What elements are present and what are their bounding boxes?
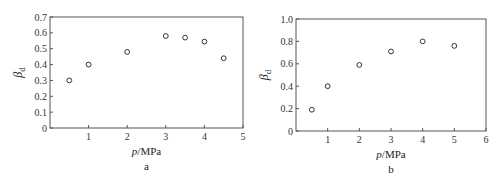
x-axis-label: p/MPa <box>131 145 161 157</box>
y-tick-label: 0.6 <box>281 58 294 69</box>
y-tick-label: 0.2 <box>35 91 48 102</box>
y-tick-label: 0.7 <box>35 12 48 23</box>
data-point <box>183 35 188 40</box>
data-point <box>163 34 168 39</box>
y-tick-label: 0 <box>288 126 293 137</box>
y-tick-label: 0.3 <box>35 75 48 86</box>
data-point <box>221 56 226 61</box>
x-tick-label: 3 <box>163 131 168 142</box>
x-tick-label: 4 <box>420 134 425 145</box>
data-point <box>309 107 314 112</box>
y-tick-label: 0.1 <box>35 107 48 118</box>
y-tick-label: 0.4 <box>35 59 48 70</box>
x-tick-label: 2 <box>125 131 130 142</box>
x-tick-label: 1 <box>86 131 91 142</box>
data-point <box>420 39 425 44</box>
chart-panel-a: 00.10.20.30.40.50.60.712345p/MPaaβd <box>11 12 246 173</box>
data-point <box>389 49 394 54</box>
x-tick-label: 5 <box>452 134 457 145</box>
x-tick-label: 4 <box>202 131 207 142</box>
y-tick-label: 0.5 <box>35 43 48 54</box>
x-axis-label: p/MPa <box>375 148 405 160</box>
x-tick-label: 1 <box>325 134 330 145</box>
x-tick-label: 2 <box>357 134 362 145</box>
y-tick-label: 0.2 <box>281 103 294 114</box>
plot-frame <box>296 19 486 131</box>
data-point <box>67 78 72 83</box>
x-tick-label: 5 <box>241 131 246 142</box>
figure: 00.10.20.30.40.50.60.712345p/MPaaβd 00.2… <box>0 0 498 184</box>
y-tick-label: 0 <box>42 123 47 134</box>
data-point <box>357 63 362 68</box>
y-axis-label: βd <box>11 67 27 79</box>
x-tick-label: 6 <box>484 134 489 145</box>
y-tick-label: 0.8 <box>281 36 294 47</box>
data-point <box>452 43 457 48</box>
y-tick-label: 0.4 <box>281 81 294 92</box>
x-tick-label: 3 <box>389 134 394 145</box>
data-point <box>125 49 130 54</box>
data-point <box>325 84 330 89</box>
chart-panel-b: 00.20.40.60.81.0123456p/MPabβd <box>257 14 489 176</box>
panel-label: b <box>388 163 394 175</box>
y-tick-label: 0.6 <box>35 27 48 38</box>
panel-label: a <box>144 160 149 172</box>
plot-frame <box>50 17 243 128</box>
y-axis-label: βd <box>257 69 273 81</box>
data-point <box>202 39 207 44</box>
data-point <box>86 62 91 67</box>
y-tick-label: 1.0 <box>281 14 294 25</box>
